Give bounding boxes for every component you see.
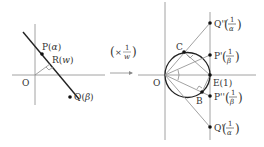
svg-text:(: ( — [225, 91, 230, 105]
right-figure: O C B E(1) Q'' ( 1 α ) P' ( 1 β ) P'' ( … — [138, 2, 256, 140]
right-origin-label: O — [153, 78, 160, 88]
label-q2: Q'' ( 1 α ) — [214, 16, 242, 33]
label-q1: Q' ( 1 α ) — [214, 120, 240, 137]
transform-label: ( × 1 w ) — [110, 44, 137, 75]
svg-text:×: × — [115, 48, 122, 57]
svg-text:P'': P'' — [214, 92, 225, 102]
svg-text:1: 1 — [230, 16, 234, 24]
right-angle-c — [187, 55, 193, 58]
svg-text:1: 1 — [231, 89, 235, 97]
right-angle-mark — [46, 67, 53, 70]
segment-or — [35, 64, 50, 75]
point-p — [40, 52, 44, 56]
svg-text:β: β — [226, 57, 231, 65]
svg-text:(: ( — [224, 18, 229, 32]
svg-text:): ) — [238, 91, 243, 105]
svg-text:α: α — [229, 25, 234, 33]
left-origin-label: O — [22, 78, 29, 88]
point-p2 — [208, 94, 212, 98]
svg-text:1: 1 — [125, 44, 129, 52]
ray-o-p1 — [165, 55, 210, 75]
label-p: P(α) — [42, 42, 61, 52]
svg-text:(: ( — [110, 45, 115, 59]
diagram-canvas: O P(α) R(w) Q(β) ( × 1 w ) — [0, 0, 264, 147]
svg-text:1: 1 — [228, 48, 232, 56]
label-q: Q(β) — [74, 92, 94, 102]
svg-text:w: w — [124, 53, 130, 61]
point-q2 — [208, 21, 212, 25]
label-p1: P' ( 1 β ) — [214, 48, 240, 65]
right-angle-b — [197, 86, 202, 89]
label-b: B — [196, 96, 203, 106]
point-e — [208, 73, 212, 77]
svg-text:α: α — [227, 129, 232, 137]
label-e: E(1) — [213, 78, 232, 88]
point-p1 — [208, 53, 212, 57]
svg-text:): ) — [235, 50, 240, 64]
svg-text:): ) — [235, 122, 240, 136]
point-q — [68, 95, 72, 99]
svg-text:): ) — [132, 45, 137, 59]
left-figure: O P(α) R(w) Q(β) — [12, 24, 105, 105]
ray-o-q1 — [165, 75, 210, 127]
label-p2: P'' ( 1 β ) — [214, 89, 243, 106]
svg-text:): ) — [237, 18, 242, 32]
point-q1 — [208, 125, 212, 129]
arrowhead-icon — [129, 71, 133, 75]
svg-text:β: β — [229, 98, 234, 106]
label-c: C — [176, 42, 183, 52]
svg-text:1: 1 — [228, 120, 232, 128]
svg-text:(: ( — [222, 122, 227, 136]
point-b — [200, 90, 204, 94]
ray-o-q2 — [165, 23, 210, 75]
label-r: R(w) — [52, 55, 74, 65]
svg-text:(: ( — [222, 50, 227, 64]
